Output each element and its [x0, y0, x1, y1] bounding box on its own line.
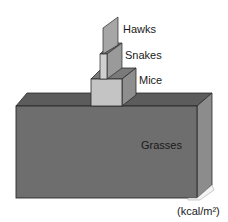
grasses-block [16, 93, 214, 200]
hawks-label: Hawks [123, 23, 157, 35]
mice-label: Mice [139, 74, 162, 86]
grasses-front-face [16, 106, 197, 198]
grasses-label: Grasses [141, 139, 182, 151]
units-label: (kcal/m²) [177, 205, 220, 217]
grasses-side-face [197, 93, 212, 198]
snakes-label: Snakes [125, 49, 162, 61]
mice-front-face [91, 79, 122, 106]
energy-pyramid-diagram: Hawks Snakes Mice Grasses (kcal/m²) [0, 0, 228, 222]
snakes-front-face [100, 54, 107, 79]
